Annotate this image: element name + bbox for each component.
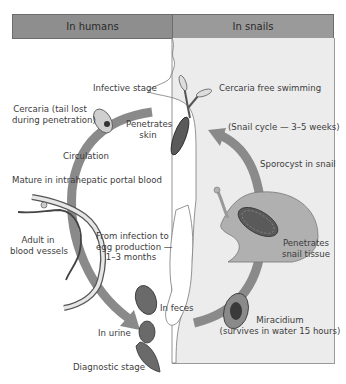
label-snail-cycle: (Snail cycle — 3–5 weeks) xyxy=(228,122,340,133)
label-in-urine: In urine xyxy=(98,328,131,339)
label-cercaria-free: Cercaria free swimming xyxy=(219,83,321,94)
label-cercaria-tail: Cercaria (tail lost during penetration) xyxy=(12,104,88,125)
label-in-feces: In feces xyxy=(160,303,194,314)
label-miracidium: Miracidium (survives in water 15 hours) xyxy=(218,315,342,336)
label-infection-to-egg: From infection to egg production — 1–3 m… xyxy=(96,231,166,263)
label-diagnostic-stage: Diagnostic stage xyxy=(73,362,145,373)
egg-urine xyxy=(139,321,155,343)
label-infective-stage: Infective stage xyxy=(93,83,157,94)
label-adult: Adult in blood vessels xyxy=(10,235,66,256)
label-sporocyst: Sporocyst in snail xyxy=(260,159,336,170)
label-penetrates-skin: Penetrates skin xyxy=(126,119,170,140)
label-circulation: Circulation xyxy=(63,151,109,162)
snail-tentacle xyxy=(218,192,228,218)
label-penetrates-snail: Penetrates snail tissue xyxy=(276,238,336,259)
label-mature: Mature in intrahepatic portal blood xyxy=(12,175,162,186)
egg-feces xyxy=(131,282,160,317)
